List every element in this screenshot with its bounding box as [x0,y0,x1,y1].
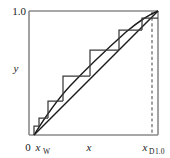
chart-figure: 1.0 y x 0 x W x D 1.0 [0,0,170,158]
xw-base: x [35,141,41,153]
x-axis-origin-label: 0 [25,141,31,153]
x-axis-label: x [86,141,92,153]
xw-subscript: W [43,147,51,156]
xd-value: 1.0 [155,147,165,156]
y-axis-label: y [13,62,19,74]
mccabe-thiele-plot: 1.0 y x 0 x W x D 1.0 [0,0,170,158]
x-axis-xw-label: x W [35,141,51,156]
xd-base: x [142,141,148,153]
y-axis-max-label: 1.0 [12,5,26,17]
x-axis-xd-label: x D 1.0 [142,141,165,156]
stage-staircase [34,18,158,135]
